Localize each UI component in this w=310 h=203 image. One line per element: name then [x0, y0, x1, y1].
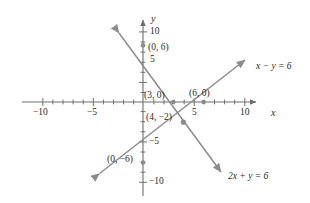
coordinate-graph-figure: x y −10 −5 5 10 10 5 −5 −10 (0, 6) (3, 0… — [0, 0, 310, 203]
x-tick-label-10: 10 — [240, 108, 250, 118]
point-label-0-neg6: (0, −6) — [107, 155, 133, 165]
point-label-3-0: (3, 0) — [144, 91, 165, 101]
y-tick-label-5: 5 — [150, 55, 155, 65]
x-tick-label-neg5: −5 — [87, 108, 97, 118]
point-label-6-0: (6, 0) — [189, 89, 210, 99]
y-tick-label-10: 10 — [150, 27, 160, 37]
point-marker-3-0 — [171, 100, 176, 105]
point-marker-4-neg2 — [181, 120, 186, 125]
point-label-0-6: (0, 6) — [148, 43, 169, 53]
point-label-4-neg2: (4, −2) — [146, 113, 172, 123]
equation-label-line2: 2x + y = 6 — [228, 172, 268, 182]
point-marker-0-6 — [141, 43, 146, 48]
x-tick-label-neg10: −10 — [33, 108, 48, 118]
x-tick-label-5: 5 — [192, 108, 197, 118]
point-marker-0-neg6 — [141, 160, 146, 165]
x-axis-label: x — [271, 108, 275, 118]
y-tick-label-neg5: −5 — [149, 137, 159, 147]
equation-label-line1: x − y = 6 — [256, 62, 292, 72]
x-axis — [22, 98, 256, 106]
point-marker-6-0 — [201, 100, 206, 105]
y-tick-label-neg10: −10 — [149, 177, 164, 187]
y-axis-label: y — [151, 14, 155, 24]
